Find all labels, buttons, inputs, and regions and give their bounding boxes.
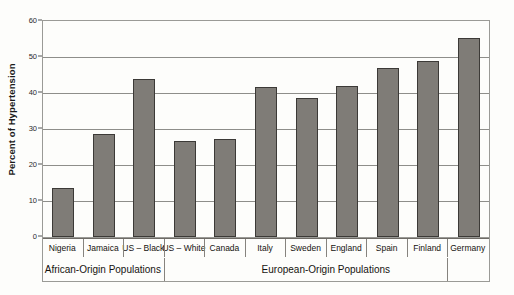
category-divider <box>366 239 367 257</box>
category-label-germany: Germany <box>447 238 488 258</box>
category-divider <box>83 239 84 257</box>
category-divider <box>245 239 246 257</box>
bar-slot <box>43 21 84 237</box>
category-label-band: NigeriaJamaicaUS – BlackUS – WhiteCanada… <box>42 238 490 258</box>
band-right-rule <box>489 238 490 282</box>
y-tick-label-40: 40 <box>29 88 37 97</box>
bar-slot <box>286 21 327 237</box>
bar-slot <box>367 21 408 237</box>
y-axis-tick-labels: 0102030405060 <box>20 20 42 238</box>
bar-slot <box>246 21 287 237</box>
bar-germany <box>458 38 480 237</box>
bar-us-white <box>174 141 196 237</box>
bar-slot <box>448 21 489 237</box>
band-left-rule <box>42 238 43 282</box>
bar-slot <box>205 21 246 237</box>
category-label-spain: Spain <box>366 238 407 258</box>
bar-slot <box>84 21 125 237</box>
bar-spain <box>377 68 399 237</box>
y-axis-title-text: Percent of Hypertension <box>6 63 17 175</box>
y-tick-label-50: 50 <box>29 52 37 61</box>
category-divider <box>204 239 205 257</box>
group-divider <box>164 258 165 281</box>
plot-area <box>42 20 490 238</box>
group-label-african-origin-populations: African-Origin Populations <box>42 258 164 281</box>
category-divider <box>326 239 327 257</box>
bar-nigeria <box>52 188 74 237</box>
bar-us-black <box>133 79 155 237</box>
category-label-jamaica: Jamaica <box>83 238 124 258</box>
y-tick-label-60: 60 <box>29 16 37 25</box>
bar-slot <box>327 21 368 237</box>
category-divider <box>123 239 124 257</box>
bar-jamaica <box>93 134 115 237</box>
category-label-us-white: US – White <box>164 238 205 258</box>
y-tick-label-20: 20 <box>29 160 37 169</box>
group-divider <box>447 258 448 281</box>
bar-slot <box>165 21 206 237</box>
bar-italy <box>255 87 277 237</box>
y-tick-label-0: 0 <box>33 232 37 241</box>
y-tick-label-10: 10 <box>29 196 37 205</box>
category-divider <box>407 239 408 257</box>
category-label-italy: Italy <box>245 238 286 258</box>
bar-canada <box>214 139 236 237</box>
bar-slot <box>124 21 165 237</box>
category-divider <box>447 239 448 257</box>
category-label-england: England <box>326 238 367 258</box>
category-label-canada: Canada <box>204 238 245 258</box>
category-divider <box>164 239 165 257</box>
bar-england <box>336 86 358 237</box>
category-label-finland: Finland <box>407 238 448 258</box>
bar-sweden <box>296 98 318 237</box>
band-bottom-rule <box>42 281 490 282</box>
bar-chart: Percent of Hypertension 0102030405060 Ni… <box>0 0 514 295</box>
category-label-nigeria: Nigeria <box>42 238 83 258</box>
y-tick-label-30: 30 <box>29 124 37 133</box>
bar-slot <box>408 21 449 237</box>
group-label-band: African-Origin PopulationsEuropean-Origi… <box>42 258 490 281</box>
group-label-european-origin-populations: European-Origin Populations <box>164 258 488 281</box>
category-divider <box>285 239 286 257</box>
y-axis-title: Percent of Hypertension <box>2 0 20 238</box>
bar-finland <box>417 61 439 237</box>
category-label-sweden: Sweden <box>285 238 326 258</box>
category-label-us-black: US – Black <box>123 238 164 258</box>
